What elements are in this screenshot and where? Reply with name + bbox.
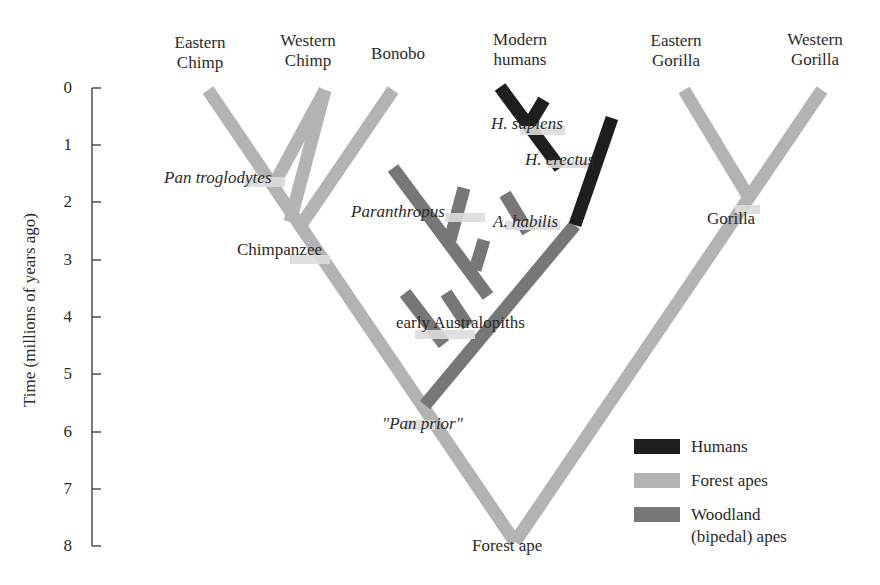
legend-item-humans: Humans xyxy=(634,436,748,458)
tick-1: 1 xyxy=(52,135,72,155)
node-forest-ape: Forest ape xyxy=(472,536,542,556)
phylogeny-diagram xyxy=(0,0,880,585)
taxon-bonobo: Bonobo xyxy=(371,44,425,64)
y-axis-label: Time (millions of years ago) xyxy=(20,213,40,407)
node-early-australopiths: early Australopiths xyxy=(396,313,525,333)
taxon-western-chimp: Western Chimp xyxy=(280,31,335,71)
node-gorilla: Gorilla xyxy=(707,209,755,229)
node-h-sapiens: H. sapiens xyxy=(491,114,563,134)
legend-item-forest-apes: Forest apes xyxy=(634,470,768,492)
tick-4: 4 xyxy=(52,307,72,327)
label-bands xyxy=(245,126,760,430)
node-paranthropus: Paranthropus xyxy=(351,202,445,222)
taxon-eastern-gorilla: Eastern Gorilla xyxy=(651,31,702,71)
node-pan-troglodytes: Pan troglodytes xyxy=(164,168,272,188)
node-h-erectus: H. erectus xyxy=(525,150,594,170)
tick-3: 3 xyxy=(52,250,72,270)
tick-0: 0 xyxy=(52,78,72,98)
tick-7: 7 xyxy=(52,479,72,499)
node-pan-prior: "Pan prior" xyxy=(382,414,463,434)
tick-2: 2 xyxy=(52,192,72,212)
forest-apes-swatch xyxy=(634,473,680,488)
humans-swatch xyxy=(634,439,680,454)
tick-5: 5 xyxy=(52,364,72,384)
node-a-habilis: A. habilis xyxy=(493,212,558,232)
node-chimpanzee: Chimpanzee xyxy=(237,240,322,260)
legend-item-woodland-apes: Woodland (bipedal) apes xyxy=(634,504,787,548)
woodland-apes-swatch xyxy=(634,507,680,522)
tick-8: 8 xyxy=(52,536,72,556)
taxon-eastern-chimp: Eastern Chimp xyxy=(175,33,226,73)
tick-6: 6 xyxy=(52,422,72,442)
time-axis xyxy=(92,88,101,546)
taxon-modern-humans: Modern humans xyxy=(493,30,547,70)
taxon-western-gorilla: Western Gorilla xyxy=(787,30,842,70)
